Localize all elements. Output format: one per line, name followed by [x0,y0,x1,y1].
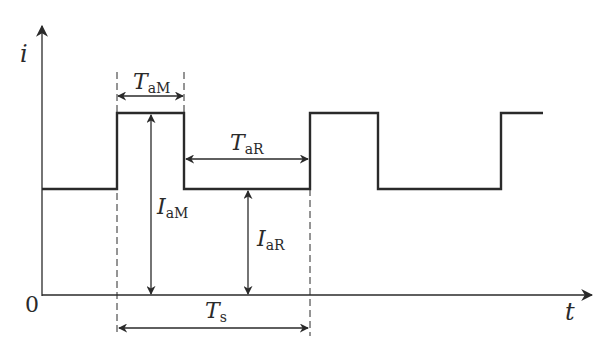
x-axis-label: t [565,298,575,326]
TaR-label: TaR [230,130,264,157]
pulse-waveform-diagram: i t 0 TaM TaR IaM IaR Ts [0,0,603,350]
y-axis-label: i [20,40,28,68]
IaM-label: IaM [156,194,188,221]
origin-label: 0 [25,292,39,317]
Ts-label: Ts [205,298,227,325]
TaM-label: TaM [133,69,170,96]
IaR-label: IaR [256,226,285,253]
